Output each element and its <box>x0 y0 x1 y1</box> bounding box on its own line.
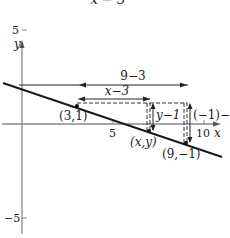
rise-partial-arrowhead-up-icon <box>151 103 156 109</box>
x-tick-label-10: 10 <box>196 127 210 140</box>
point-9-minus1-label: (9,−1) <box>162 147 201 161</box>
point-3-1-label: (3,1) <box>59 109 87 123</box>
y-tick-label-5: 5 <box>12 24 19 37</box>
x-tick-label-5: 5 <box>109 127 116 140</box>
point-9-minus1 <box>184 141 188 145</box>
y-axis-label: y <box>13 37 21 51</box>
rise-full-label: (−1)−1 <box>193 108 230 122</box>
run-full-label: 9−3 <box>120 69 145 83</box>
rise-full-arrowhead-up-icon <box>188 103 193 109</box>
slope-diagram: x − 3 y 5 −5 x 5 10 9−3 x−3 y−1 (−1)−1 (… <box>0 0 230 238</box>
run-full-arrowhead-right-icon <box>180 83 187 88</box>
x-axis-label: x <box>214 126 221 140</box>
rise-partial-arrowhead-down-icon <box>151 125 156 131</box>
rise-partial-label: y−1 <box>155 108 180 122</box>
run-full-arrowhead-left-icon <box>79 83 86 88</box>
run-partial-arrowhead-left-icon <box>78 97 85 102</box>
run-partial-arrowhead-right-icon <box>143 97 150 102</box>
point-x-y <box>147 129 151 133</box>
point-3-1 <box>75 104 79 108</box>
title-label: x − 3 <box>91 0 126 7</box>
run-partial-label: x−3 <box>105 84 130 98</box>
point-x-y-label: (x,y) <box>130 135 157 149</box>
rise-full-arrowhead-down-icon <box>188 137 193 143</box>
y-tick-label-minus5: −5 <box>4 212 20 225</box>
